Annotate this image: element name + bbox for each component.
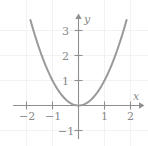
y-axis-arrow-icon [75, 14, 81, 20]
x-tick-label-2: 2 [127, 111, 134, 122]
x-axis-label: x [133, 91, 139, 102]
y-axis [75, 14, 81, 140]
x-axis-arrow-icon [139, 102, 145, 108]
plot-canvas [0, 0, 148, 146]
parabola-graph-figure: −2 −1 1 2 1 2 3 −1 x y [0, 0, 148, 146]
x-tick-label-neg2: −2 [19, 111, 35, 122]
x-tick-label-1: 1 [101, 111, 108, 122]
y-tick-label-2: 2 [62, 51, 69, 62]
y-tick-label-neg1: −1 [58, 126, 74, 137]
y-tick-label-3: 3 [62, 26, 69, 37]
x-tick-label-neg1: −1 [45, 111, 61, 122]
y-axis-label: y [84, 14, 90, 25]
y-tick-label-1: 1 [62, 76, 69, 87]
